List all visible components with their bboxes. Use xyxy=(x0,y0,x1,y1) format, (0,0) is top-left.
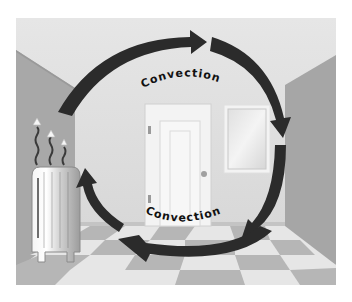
radiator xyxy=(32,167,80,262)
door-hinge-top xyxy=(148,126,151,134)
convection-illustration: Convection Convection xyxy=(0,0,352,302)
door-hinge-bottom xyxy=(148,195,151,203)
door-knob xyxy=(201,171,207,177)
room-scene: Convection Convection xyxy=(0,0,352,302)
window xyxy=(224,105,270,173)
